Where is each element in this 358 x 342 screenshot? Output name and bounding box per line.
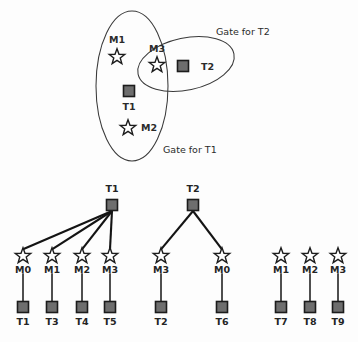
tree-t2: T2M3M0T2T6 — [153, 183, 230, 327]
tree-task-label: T7 — [274, 316, 287, 327]
venn-machine-m2: M2 — [120, 120, 157, 135]
star-icon — [15, 248, 31, 263]
tree-edge-root-to-machine — [110, 211, 112, 249]
tree-task-node: T4 — [75, 302, 88, 328]
tree-t1: T1M0M1M2M3T1T3T4T5 — [15, 183, 119, 327]
task-square-icon — [276, 302, 287, 313]
venn-machine-m1: M1 — [109, 34, 125, 64]
task-square-icon — [107, 200, 118, 211]
tree-machine-node: M3 — [330, 248, 346, 275]
tree-machine-node: M0 — [15, 248, 31, 275]
tree-root-label: T2 — [186, 183, 199, 194]
tree-task-label: T3 — [45, 316, 58, 327]
star-icon — [330, 248, 346, 263]
tree-task-node: T3 — [45, 302, 58, 328]
tree-machine-node: M2 — [74, 248, 90, 275]
tree-machine-label: M1 — [44, 264, 60, 275]
tree-task-label: T9 — [331, 316, 344, 327]
tree-machine-label: M3 — [330, 264, 346, 275]
tree-task-node: T9 — [331, 302, 344, 328]
tree-task-label: T8 — [303, 316, 316, 327]
gate-for-t2-label: Gate for T2 — [216, 26, 270, 37]
tree-machine-label: M2 — [74, 264, 90, 275]
venn-task-t2-label: T2 — [201, 61, 214, 72]
star-icon — [74, 248, 90, 263]
task-square-icon — [305, 302, 316, 313]
task-square-icon — [47, 302, 58, 313]
tree-machine-node: M2 — [302, 248, 318, 275]
task-square-icon — [178, 61, 189, 72]
tree-machine-label: M3 — [153, 264, 169, 275]
tree-task-node: T1 — [16, 302, 29, 328]
task-square-icon — [77, 302, 88, 313]
tree-task-label: T2 — [154, 316, 167, 327]
assignment-tree-panel: T1M0M1M2M3T1T3T4T5T2M3M0T2T6M1M2M3T7T8T9 — [15, 183, 346, 327]
star-icon — [109, 49, 125, 64]
tree-machine-node: M1 — [273, 248, 289, 275]
star-icon — [44, 248, 60, 263]
tree-task-node: T6 — [215, 302, 228, 328]
tree-root-node: T2 — [186, 183, 199, 211]
tree-task-label: T5 — [103, 316, 116, 327]
gate-for-t1-label: Gate for T1 — [163, 144, 217, 155]
tree-machine-node: M0 — [214, 248, 230, 275]
tree-machine-label: M0 — [15, 264, 31, 275]
tree-orphans: M1M2M3T7T8T9 — [273, 248, 346, 327]
task-square-icon — [18, 302, 29, 313]
task-square-icon — [333, 302, 344, 313]
tree-edge-root-to-machine — [161, 211, 193, 249]
tree-edge-root-to-machine — [52, 211, 112, 249]
venn-machine-m1-label: M1 — [109, 34, 125, 45]
tree-task-node: T7 — [274, 302, 287, 328]
star-icon — [120, 120, 136, 135]
venn-machine-m2-label: M2 — [141, 122, 157, 133]
star-icon — [214, 248, 230, 263]
venn-machine-m3-label: M3 — [149, 43, 165, 54]
tree-edge-root-to-machine — [23, 211, 112, 249]
venn-task-t1-label: T1 — [122, 101, 135, 112]
star-icon — [102, 248, 118, 263]
task-square-icon — [105, 302, 116, 313]
task-square-icon — [124, 86, 135, 97]
task-square-icon — [217, 302, 228, 313]
star-icon — [149, 57, 165, 72]
tree-machine-label: M3 — [102, 264, 118, 275]
venn-machine-m3: M3 — [149, 43, 165, 72]
figure-canvas: Gate for T1 Gate for T2 M1 M3 M2 T1 — [0, 0, 358, 342]
tree-root-label: T1 — [105, 183, 118, 194]
tree-machine-node: M3 — [102, 248, 118, 275]
tree-task-node: T2 — [154, 302, 167, 328]
tree-task-label: T1 — [16, 316, 29, 327]
tree-task-label: T6 — [215, 316, 228, 327]
task-square-icon — [188, 200, 199, 211]
tree-machine-node: M1 — [44, 248, 60, 275]
venn-task-t1: T1 — [122, 86, 135, 113]
tree-machine-node: M3 — [153, 248, 169, 275]
diagram-svg: Gate for T1 Gate for T2 M1 M3 M2 T1 — [0, 0, 358, 342]
tree-task-node: T5 — [103, 302, 116, 328]
star-icon — [302, 248, 318, 263]
tree-task-node: T8 — [303, 302, 316, 328]
star-icon — [273, 248, 289, 263]
star-icon — [153, 248, 169, 263]
tree-machine-label: M1 — [273, 264, 289, 275]
task-square-icon — [156, 302, 167, 313]
tree-edge-root-to-machine — [193, 211, 222, 249]
tree-root-node: T1 — [105, 183, 118, 211]
venn-task-t2: T2 — [178, 61, 215, 73]
tree-task-label: T4 — [75, 316, 88, 327]
gate-venn-panel: Gate for T1 Gate for T2 M1 M3 M2 T1 — [96, 11, 270, 161]
tree-machine-label: M2 — [302, 264, 318, 275]
tree-machine-label: M0 — [214, 264, 230, 275]
